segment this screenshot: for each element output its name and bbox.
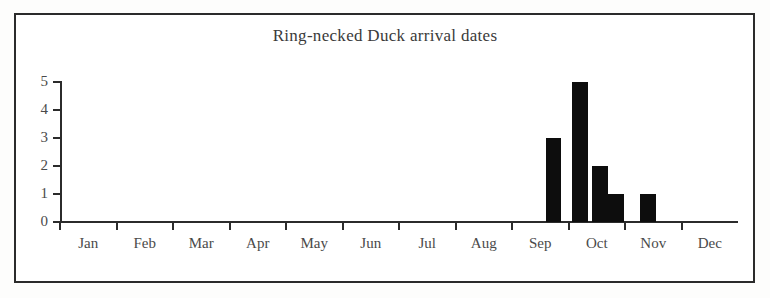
y-axis-tick-label: 2 (22, 158, 48, 173)
x-axis-tick (455, 223, 457, 230)
y-axis-tick-label: 3 (22, 130, 48, 145)
x-axis-tick (59, 223, 61, 230)
x-axis-tick-label: Sep (510, 236, 570, 251)
figure-container: Ring-necked Duck arrival dates 012345 Ja… (0, 0, 770, 298)
bar (572, 82, 588, 222)
y-axis-tick (53, 137, 61, 139)
x-axis-tick-label: Dec (680, 236, 740, 251)
y-axis-tick (53, 81, 61, 83)
y-axis-tick (53, 109, 61, 111)
x-axis-tick (229, 223, 231, 230)
bar (640, 194, 656, 222)
x-axis-tick-label: Mar (171, 236, 231, 251)
x-axis-tick (285, 223, 287, 230)
x-axis-tick (172, 223, 174, 230)
x-axis-tick-label: Jun (341, 236, 401, 251)
x-axis-tick (624, 223, 626, 230)
y-axis-tick-label: 4 (22, 102, 48, 117)
x-axis-tick-label: Feb (115, 236, 175, 251)
bar (608, 194, 624, 222)
x-axis-tick (342, 223, 344, 230)
y-axis-tick-label: 0 (22, 214, 48, 229)
x-axis-tick (116, 223, 118, 230)
x-axis-tick-label: Aug (454, 236, 514, 251)
x-axis-tick-label: Apr (228, 236, 288, 251)
x-axis-tick (681, 223, 683, 230)
chart-title: Ring-necked Duck arrival dates (0, 26, 770, 46)
bar (546, 138, 561, 222)
x-axis-tick (511, 223, 513, 230)
x-axis-tick-label: Jan (58, 236, 118, 251)
x-axis-tick-label: Oct (567, 236, 627, 251)
y-axis-line (60, 81, 62, 223)
y-axis-tick (53, 193, 61, 195)
x-axis-tick-label: Nov (623, 236, 683, 251)
bar (592, 166, 608, 222)
x-axis-tick-label: May (284, 236, 344, 251)
x-axis-tick (398, 223, 400, 230)
x-axis-tick (568, 223, 570, 230)
y-axis-tick-label: 1 (22, 186, 48, 201)
x-axis-tick-label: Jul (397, 236, 457, 251)
y-axis-tick-label: 5 (22, 74, 48, 89)
y-axis-tick (53, 165, 61, 167)
